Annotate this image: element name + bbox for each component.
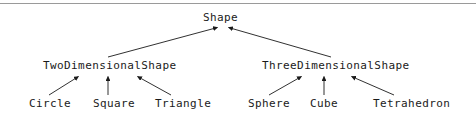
- edge-sphere-to-threedimensionalshape: [269, 77, 302, 96]
- edge-triangle-to-twodimensionalshape: [138, 77, 172, 96]
- edge-circle-to-twodimensionalshape: [49, 77, 79, 96]
- node-shape[interactable]: Shape: [203, 12, 238, 24]
- node-sphere[interactable]: Sphere: [248, 98, 290, 110]
- diagram-canvas: Shape TwoDimensionalShape ThreeDimension…: [0, 0, 476, 119]
- edge-threedimensionalshape-to-shape: [229, 28, 332, 58]
- edge-twodimensionalshape-to-shape: [108, 28, 218, 58]
- node-threedimensionalshape[interactable]: ThreeDimensionalShape: [262, 60, 409, 72]
- node-tetrahedron[interactable]: Tetrahedron: [373, 98, 450, 110]
- node-twodimensionalshape[interactable]: TwoDimensionalShape: [43, 60, 176, 72]
- node-cube[interactable]: Cube: [310, 98, 338, 110]
- node-circle[interactable]: Circle: [29, 98, 71, 110]
- node-square[interactable]: Square: [93, 98, 135, 110]
- edge-tetrahedron-to-threedimensionalshape: [352, 77, 395, 96]
- node-triangle[interactable]: Triangle: [155, 98, 211, 110]
